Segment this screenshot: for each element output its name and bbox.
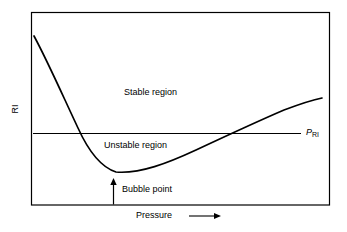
annotation-bubble-point: Bubble point: [122, 185, 172, 194]
pri-subscript: RI: [312, 131, 319, 138]
plot-canvas: [0, 0, 347, 232]
ri-pressure-curve: [34, 36, 322, 172]
annotation-unstable-region: Unstable region: [104, 141, 167, 150]
right-arrow-icon: [214, 213, 221, 219]
y-axis-label: RI: [10, 96, 20, 122]
annotation-stable-region: Stable region: [124, 88, 177, 97]
up-arrow-icon: [110, 178, 116, 185]
x-axis-label: Pressure: [136, 211, 172, 220]
plot-frame: [32, 13, 330, 206]
refractive-index-pressure-diagram: Stable region Unstable region Bubble poi…: [0, 0, 347, 232]
y-axis-label-text: RI: [11, 105, 20, 114]
pri-threshold-label: PRI: [306, 128, 319, 137]
